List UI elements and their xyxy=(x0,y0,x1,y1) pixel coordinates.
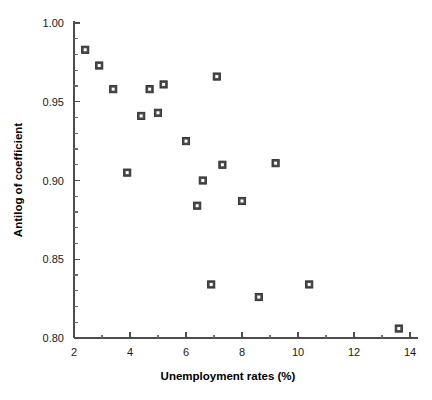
x-tick-label: 8 xyxy=(239,346,245,358)
data-point-center xyxy=(215,75,218,78)
data-point xyxy=(138,112,145,119)
data-point-center xyxy=(112,88,115,91)
data-point xyxy=(213,73,220,80)
data-point-center xyxy=(257,296,260,299)
data-point-center xyxy=(196,204,199,207)
x-tick-label: 12 xyxy=(348,346,360,358)
data-point xyxy=(82,46,89,53)
data-point xyxy=(208,281,215,288)
y-tick-label: 0.90 xyxy=(43,175,64,187)
data-point xyxy=(124,169,131,176)
y-tick-label: 0.85 xyxy=(43,253,64,265)
data-point xyxy=(272,160,279,167)
data-point-center xyxy=(308,283,311,286)
data-point-center xyxy=(126,171,129,174)
x-axis-ticks xyxy=(74,332,410,338)
data-point-center xyxy=(162,83,165,86)
scatter-chart: 2468101214 0.800.850.900.951.00 Unemploy… xyxy=(0,0,432,400)
data-point xyxy=(110,86,117,93)
data-point-center xyxy=(98,64,101,67)
data-point xyxy=(219,161,226,168)
y-tick-label: 0.95 xyxy=(43,96,64,108)
data-point-center xyxy=(201,179,204,182)
x-tick-label: 10 xyxy=(292,346,304,358)
data-point-center xyxy=(185,140,188,143)
data-point-center xyxy=(84,48,87,51)
data-point xyxy=(238,197,245,204)
data-point xyxy=(306,281,313,288)
y-axis-title: Antilog of coefficient xyxy=(12,123,24,238)
data-point-center xyxy=(210,283,213,286)
data-point xyxy=(194,202,201,209)
data-point-center xyxy=(397,327,400,330)
y-axis-ticks xyxy=(74,23,80,338)
data-point-center xyxy=(221,163,224,166)
data-point-center xyxy=(157,111,160,114)
data-point xyxy=(146,86,153,93)
data-point-center xyxy=(140,114,143,117)
data-point xyxy=(154,109,161,116)
data-point xyxy=(199,177,206,184)
data-point xyxy=(96,62,103,69)
y-axis-tick-labels: 0.800.850.900.951.00 xyxy=(43,17,64,344)
data-point-center xyxy=(241,199,244,202)
x-axis-tick-labels: 2468101214 xyxy=(71,346,416,358)
data-point xyxy=(255,293,262,300)
data-point xyxy=(182,138,189,145)
x-tick-label: 4 xyxy=(127,346,133,358)
data-point xyxy=(160,81,167,88)
chart-canvas: 2468101214 0.800.850.900.951.00 Unemploy… xyxy=(0,0,432,400)
y-tick-label: 1.00 xyxy=(43,17,64,29)
x-tick-label: 2 xyxy=(71,346,77,358)
data-point-series xyxy=(82,46,403,332)
data-point-center xyxy=(274,162,277,165)
data-point-center xyxy=(148,88,151,91)
x-tick-label: 14 xyxy=(404,346,416,358)
x-tick-label: 6 xyxy=(183,346,189,358)
x-axis-title: Unemployment rates (%) xyxy=(161,370,296,382)
data-point xyxy=(395,325,402,332)
y-tick-label: 0.80 xyxy=(43,332,64,344)
